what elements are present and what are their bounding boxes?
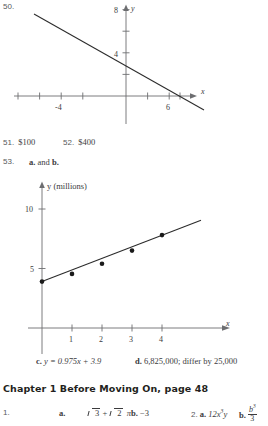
y-axis-label: y [130, 4, 135, 13]
part-c: c. y = 0.975x + 3.9 [36, 356, 101, 366]
part-c-label: c. [36, 356, 42, 366]
q2-b-fraction: b3 3 [248, 404, 257, 423]
sqrt-2-radicand: 2 [116, 408, 122, 418]
x-axis-arrow [190, 93, 197, 99]
sqrt-3-icon: 3 [87, 408, 100, 418]
q2-b-numerator: b3 [248, 404, 257, 414]
sqrt-2-icon: 2 [109, 408, 122, 418]
sqrt-3-radicand: 3 [94, 408, 100, 418]
exercise-51: 51. $100 [3, 131, 35, 149]
part-a-label: a. [29, 157, 35, 167]
exercise-52-number: 52. [63, 138, 74, 147]
x-tick-label-2: 2 [99, 335, 103, 344]
q1-b-label: b. [131, 408, 138, 418]
regression-line [40, 220, 201, 282]
y-tick-label-4: 4 [114, 50, 118, 59]
q1-a-label: a. [59, 408, 65, 418]
question-1-part-a: a. [59, 408, 65, 418]
x-tick-label-1: 1 [69, 335, 73, 344]
x-tick-label-neg4: -4 [55, 103, 62, 112]
x-axis-label: x [225, 319, 230, 328]
y-tick-label-8: 8 [114, 6, 118, 15]
q2-a-answer: 12x3y [208, 409, 227, 419]
question-2-number: 2. [191, 410, 198, 419]
exercise-51-number: 51. [3, 138, 14, 147]
graph-exercise-50: x y -4 6 4 8 [8, 0, 266, 126]
part-d: d. 6,825,000; differ by 25,000 [135, 356, 237, 366]
y-axis-label: y (millions) [47, 181, 87, 191]
x-tick-label-3: 3 [129, 335, 133, 344]
parts-conjunction: and [38, 157, 50, 167]
x-tick-label-4: 4 [159, 335, 163, 344]
exercise-52: 52. $400 [63, 131, 95, 149]
question-2: 2. a. 12x3y [191, 408, 227, 419]
question-2-part-b: b. b3 3 [239, 404, 257, 423]
q2-a-base: 12x [208, 409, 220, 419]
data-point [40, 279, 45, 284]
chapter-heading: Chapter 1 Before Moving On, page 48 [3, 383, 208, 394]
q2-b-num-exponent: 3 [253, 403, 256, 409]
graph-exercise-53: x y (millions) 1 2 3 4 5 10 [6, 172, 262, 357]
part-c-answer: y = 0.975x + 3.9 [44, 356, 101, 366]
exercise-52-answer: $400 [78, 137, 95, 147]
q1-a-answer: 3 + 2 π [87, 408, 131, 418]
q2-b-denominator: 3 [248, 414, 257, 423]
question-1-part-b: b. −3 [131, 408, 149, 418]
plus-sign: + [102, 408, 107, 418]
q2-a-tail: y [223, 409, 227, 419]
exercise-51-answer: $100 [18, 137, 35, 147]
data-point [100, 261, 105, 266]
data-point [160, 233, 165, 238]
exercise-53-number: 53. [3, 157, 14, 166]
part-d-label: d. [135, 356, 142, 366]
x-axis-label: x [200, 87, 205, 96]
question-1-number: 1. [3, 408, 10, 417]
exercise-53-parts-ab: a. and b. [29, 157, 59, 167]
chapter-question-row: 1. a. 3 + 2 π b. −3 2. a. 12x3y b. b3 3 [3, 404, 268, 426]
exercise-50: 50. [0, 0, 268, 128]
data-point [130, 248, 135, 253]
data-point [70, 272, 75, 277]
q1-b-answer: −3 [140, 408, 149, 418]
part-d-answer: 6,825,000; differ by 25,000 [144, 356, 237, 366]
x-tick-label-6: 6 [166, 103, 170, 112]
q2-a-label: a. [200, 409, 206, 419]
y-tick-label-10: 10 [25, 205, 33, 214]
y-tick-label-5: 5 [30, 265, 34, 274]
part-b-label: b. [52, 157, 59, 167]
answer-key-page: 50. [0, 0, 268, 426]
y-axis-arrow [39, 182, 45, 189]
q2-b-label: b. [239, 410, 246, 420]
